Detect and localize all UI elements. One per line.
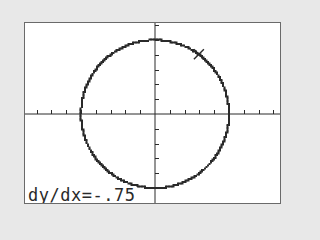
x-cursor-icon (194, 49, 204, 59)
graph-plot (25, 23, 281, 204)
calculator-graph-screen: dy/dx=-.75 (24, 22, 281, 204)
readout-label: dy/dx= (28, 185, 92, 204)
derivative-readout: dy/dx=-.75 (27, 187, 137, 204)
readout-value: -.75 (92, 185, 135, 204)
